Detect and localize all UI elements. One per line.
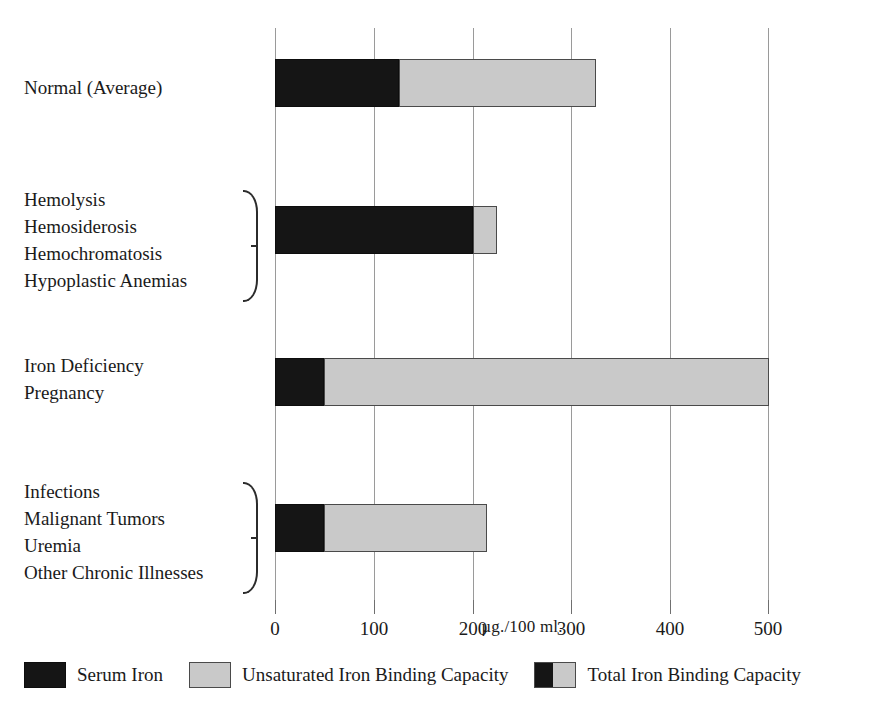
legend-item-unsaturated: Unsaturated Iron Binding Capacity xyxy=(189,662,508,688)
category-label-chronic-disease: Infections Malignant Tumors Uremia Other… xyxy=(24,478,203,586)
bar-row-chronic-disease xyxy=(275,504,769,552)
category-label-iron-overload: Hemolysis Hemosiderosis Hemochromatosis … xyxy=(24,186,187,294)
bar-segment-serum-iron xyxy=(275,504,324,552)
category-label-line: Malignant Tumors xyxy=(24,505,203,532)
legend-swatch-unsaturated-icon xyxy=(189,662,231,688)
bar-segment-unsaturated xyxy=(324,504,487,552)
category-label-line: Other Chronic Illnesses xyxy=(24,559,203,586)
category-label-line: Hemochromatosis xyxy=(24,240,187,267)
category-label-line: Hemosiderosis xyxy=(24,213,187,240)
category-label-line: Hemolysis xyxy=(24,186,187,213)
legend-label: Unsaturated Iron Binding Capacity xyxy=(242,664,508,686)
bar-segment-unsaturated xyxy=(399,59,597,107)
tick-400 xyxy=(670,600,671,614)
legend-item-serum-iron: Serum Iron xyxy=(24,662,163,688)
plot-area: 0 100 200 300 400 500 xyxy=(275,28,769,600)
legend-item-total: Total Iron Binding Capacity xyxy=(534,662,800,688)
legend: Serum Iron Unsaturated Iron Binding Capa… xyxy=(24,660,870,690)
bar-row-iron-deficiency xyxy=(275,358,769,406)
brace-chronic-disease xyxy=(243,482,258,594)
bar-segment-serum-iron xyxy=(275,206,473,254)
category-label-line: Uremia xyxy=(24,532,203,559)
category-label-line: Pregnancy xyxy=(24,379,144,406)
bar-segment-serum-iron xyxy=(275,59,399,107)
iron-binding-capacity-chart: Normal (Average) Hemolysis Hemosiderosis… xyxy=(0,0,890,702)
tick-300 xyxy=(571,600,572,614)
brace-iron-overload xyxy=(243,190,258,302)
legend-swatch-total-icon xyxy=(534,662,576,688)
category-label-iron-deficiency: Iron Deficiency Pregnancy xyxy=(24,352,144,406)
category-label-line: Iron Deficiency xyxy=(24,352,144,379)
tick-100 xyxy=(374,600,375,614)
tick-500 xyxy=(768,600,769,614)
legend-label: Serum Iron xyxy=(77,664,163,686)
bar-segment-unsaturated xyxy=(324,358,769,406)
bar-segment-unsaturated xyxy=(473,206,498,254)
legend-label: Total Iron Binding Capacity xyxy=(587,664,800,686)
x-axis-title: µg./100 ml. xyxy=(275,617,769,637)
bar-segment-serum-iron xyxy=(275,358,324,406)
category-label-line: Hypoplastic Anemias xyxy=(24,267,187,294)
category-label-normal: Normal (Average) xyxy=(24,74,162,101)
tick-200 xyxy=(473,600,474,614)
tick-0 xyxy=(275,600,276,614)
bar-row-iron-overload xyxy=(275,206,769,254)
category-label-line: Normal (Average) xyxy=(24,74,162,101)
bar-row-normal xyxy=(275,59,769,107)
legend-swatch-serum-iron-icon xyxy=(24,662,66,688)
category-label-line: Infections xyxy=(24,478,203,505)
